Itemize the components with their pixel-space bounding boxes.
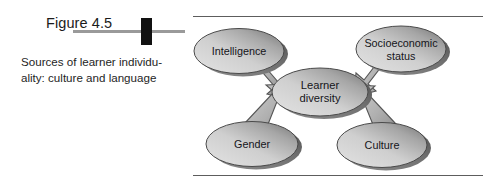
node-culture-label: Culture	[365, 139, 400, 151]
node-intelligence[interactable]: Intelligence	[194, 29, 288, 77]
node-learner-diversity-label-line-1: Learner	[301, 79, 340, 91]
horizontal-rule-icon	[73, 30, 185, 33]
figure-caption-text: Sources of learner individu- ality: cult…	[21, 54, 186, 85]
caption-line-1: Sources of learner individu-	[21, 55, 162, 68]
node-socioeconomic-status-label-line-2: status	[387, 50, 416, 62]
node-learner-diversity-label-line-2: diversity	[299, 92, 340, 104]
node-gender-label: Gender	[234, 138, 270, 150]
diagram-canvas: Intelligence Socioeconomic status Gender…	[190, 0, 498, 187]
caption-line-2: ality: culture and language	[21, 71, 156, 84]
figure-page: Figure 4.5 Sources of learner individu- …	[0, 0, 498, 187]
node-culture[interactable]: Culture	[337, 123, 431, 171]
node-socioeconomic-status-label-line-1: Socioeconomic	[364, 37, 438, 49]
black-rectangle-marker-icon	[141, 18, 152, 45]
node-intelligence-label: Intelligence	[212, 45, 267, 57]
concept-map-diagram: Intelligence Socioeconomic status Gender…	[190, 0, 498, 187]
node-gender[interactable]: Gender	[206, 122, 302, 170]
page-title: Figure 4.5	[46, 15, 112, 31]
figure-caption-block: Figure 4.5 Sources of learner individu- …	[0, 0, 190, 187]
node-socioeconomic-status[interactable]: Socioeconomic status	[356, 26, 450, 75]
